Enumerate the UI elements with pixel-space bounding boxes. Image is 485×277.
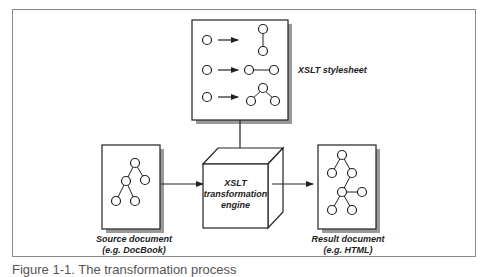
source-document-label: Source document (e.g. DocBook): [84, 234, 184, 256]
result-label-line1: Result document: [298, 234, 398, 245]
result-document-box: [318, 145, 380, 233]
engine-label-line1: XSLT: [203, 178, 268, 189]
source-document-box: [102, 145, 164, 233]
engine-label-line3: engine: [203, 200, 268, 211]
source-label-line1: Source document: [84, 234, 184, 245]
engine-label-line2: transformation: [203, 189, 268, 200]
source-label-line2: (e.g. DocBook): [84, 245, 184, 256]
stylesheet-label: XSLT stylesheet: [298, 65, 367, 76]
result-label-line2: (e.g. HTML): [298, 245, 398, 256]
stylesheet-box: [192, 20, 292, 124]
figure-caption: Figure 1-1. The transformation process: [12, 262, 236, 277]
engine-label: XSLT transformation engine: [203, 178, 268, 211]
result-document-label: Result document (e.g. HTML): [298, 234, 398, 256]
